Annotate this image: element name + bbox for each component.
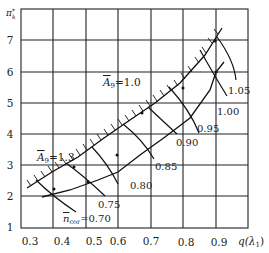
label-speed-0-80: 0.80 bbox=[130, 180, 152, 191]
svg-text:5: 5 bbox=[7, 97, 14, 109]
label-a9-1-3: A9=1.3 bbox=[36, 151, 75, 165]
svg-text:0.9: 0.9 bbox=[211, 236, 228, 248]
x-axis-ticks: 0.3 0.4 0.5 0.6 0.7 0.8 0.9 bbox=[22, 235, 228, 248]
svg-text:0.3: 0.3 bbox=[22, 235, 39, 247]
label-speed-1-05: 1.05 bbox=[228, 85, 250, 96]
svg-text:0.5: 0.5 bbox=[86, 235, 103, 247]
label-speed-0-90: 0.90 bbox=[176, 137, 198, 148]
label-speed-1-00: 1.00 bbox=[217, 106, 239, 117]
label-a9-1-0: A9=1.0 bbox=[102, 76, 141, 90]
x-axis-label: q(λ1) bbox=[238, 235, 264, 249]
svg-text:3: 3 bbox=[7, 159, 14, 171]
surge-line bbox=[27, 28, 222, 188]
svg-text:0.8: 0.8 bbox=[178, 236, 195, 248]
svg-text:6: 6 bbox=[7, 66, 14, 78]
label-speed-0-85: 0.85 bbox=[155, 161, 177, 172]
svg-text:0.6: 0.6 bbox=[110, 235, 127, 247]
svg-text:4: 4 bbox=[7, 128, 14, 140]
y-axis-ticks: 7 6 5 4 3 2 1 bbox=[7, 34, 14, 233]
label-ncor-0-70: ncor=0.70 bbox=[63, 213, 111, 226]
svg-text:2: 2 bbox=[7, 190, 14, 202]
svg-text:7: 7 bbox=[7, 34, 14, 46]
compressor-map-chart: A9=1.0 A9=1.3 ncor=0.70 0.75 0.80 0.85 0… bbox=[0, 0, 269, 253]
svg-text:0.7: 0.7 bbox=[143, 235, 160, 247]
svg-text:1: 1 bbox=[7, 221, 14, 233]
label-speed-0-95: 0.95 bbox=[197, 123, 219, 134]
label-speed-0-75: 0.75 bbox=[98, 199, 120, 210]
svg-text:0.4: 0.4 bbox=[54, 235, 71, 247]
y-axis-label: π*k bbox=[5, 7, 16, 20]
